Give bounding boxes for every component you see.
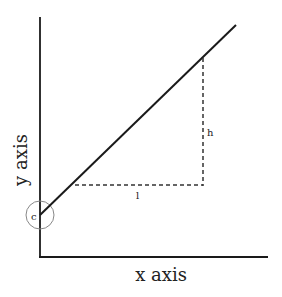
linear-graph-diagram: c l h x axis y axis (0, 0, 282, 297)
rise-label: h (207, 127, 214, 138)
linear-line (40, 25, 236, 215)
run-label: l (136, 190, 139, 201)
x-axis-label: x axis (135, 264, 187, 285)
intercept-label: c (31, 211, 37, 222)
y-axis-label: y axis (10, 134, 31, 187)
